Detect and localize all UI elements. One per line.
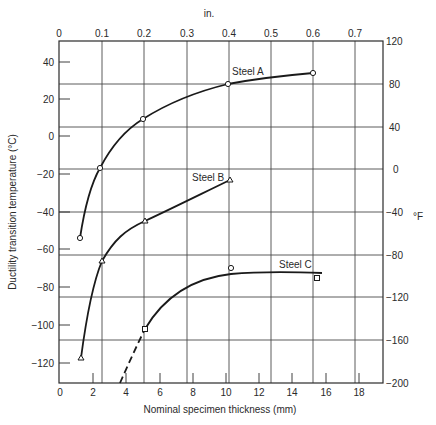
svg-text:4: 4 — [123, 387, 129, 398]
svg-text:16: 16 — [320, 387, 332, 398]
svg-text:0.3: 0.3 — [180, 28, 194, 39]
svg-text:6: 6 — [157, 387, 163, 398]
svg-text:−40: −40 — [37, 207, 54, 218]
steel-c-point — [143, 327, 148, 332]
svg-text:−120: −120 — [386, 292, 409, 303]
steel-b-curve — [81, 180, 230, 358]
steel-a-label: Steel A — [232, 66, 264, 77]
right-axis: 120 80 40 0 −40 −80 −120 −160 −200 — [386, 36, 409, 389]
steel-c-markers — [143, 265, 320, 331]
steel-c-point — [315, 276, 320, 281]
svg-text:−160: −160 — [386, 335, 409, 346]
svg-text:120: 120 — [386, 36, 403, 47]
left-ticks — [59, 62, 70, 363]
svg-text:−80: −80 — [37, 282, 54, 293]
horizontal-grid — [59, 84, 383, 340]
svg-text:0.1: 0.1 — [95, 28, 109, 39]
svg-text:−60: −60 — [37, 244, 54, 255]
svg-text:0.2: 0.2 — [137, 28, 151, 39]
steel-b-markers — [78, 177, 233, 360]
svg-text:0.6: 0.6 — [306, 28, 320, 39]
svg-text:−20: −20 — [37, 169, 54, 180]
bottom-axis: 0 2 4 6 8 10 12 14 16 18 Nominal specime… — [57, 387, 365, 415]
svg-text:80: 80 — [389, 79, 401, 90]
left-axis: 40 20 0 −20 −40 −60 −80 −100 −120 — [31, 57, 54, 369]
bottom-axis-title: Nominal specimen thickness (mm) — [144, 404, 297, 415]
steel-c-label: Steel C — [279, 259, 312, 270]
svg-text:−80: −80 — [386, 250, 403, 261]
svg-text:0.7: 0.7 — [348, 28, 362, 39]
top-axis-title: in. — [204, 8, 215, 19]
svg-text:0: 0 — [57, 387, 63, 398]
svg-text:18: 18 — [353, 387, 365, 398]
svg-text:12: 12 — [253, 387, 265, 398]
svg-text:−40: −40 — [386, 207, 403, 218]
svg-text:2: 2 — [90, 387, 96, 398]
steel-a-point — [225, 81, 230, 86]
steel-a-markers — [77, 70, 315, 240]
steel-c-curve — [145, 272, 322, 329]
steel-c-dashed-extrapolation — [120, 329, 145, 383]
svg-text:0: 0 — [393, 164, 399, 175]
svg-text:10: 10 — [220, 387, 232, 398]
steel-a-point — [310, 70, 315, 75]
steel-a-point — [97, 165, 102, 170]
svg-text:20: 20 — [43, 94, 55, 105]
svg-text:40: 40 — [43, 57, 55, 68]
steel-b-point — [227, 177, 233, 182]
bottom-ticks — [93, 373, 359, 383]
steel-a-point — [140, 116, 145, 121]
svg-text:14: 14 — [286, 387, 298, 398]
svg-text:0: 0 — [48, 131, 54, 142]
svg-text:−100: −100 — [31, 320, 54, 331]
svg-text:−120: −120 — [31, 358, 54, 369]
ductility-transition-chart: in. 0 0.1 0.2 0.3 0.4 0.5 0.6 0.7 40 20 … — [0, 0, 436, 425]
svg-text:−200: −200 — [386, 378, 409, 389]
steel-c-point — [228, 265, 233, 270]
svg-text:0: 0 — [56, 28, 62, 39]
svg-text:0.5: 0.5 — [264, 28, 278, 39]
steel-b-point — [78, 355, 84, 360]
steel-a-point — [77, 235, 82, 240]
steel-a-curve — [80, 73, 313, 238]
top-axis: in. 0 0.1 0.2 0.3 0.4 0.5 0.6 0.7 — [56, 8, 362, 39]
right-axis-unit: °F — [413, 211, 423, 222]
left-axis-title: Ductility transition temperature (°C) — [7, 134, 18, 290]
steel-b-label: Steel B — [192, 172, 225, 183]
svg-text:0.4: 0.4 — [222, 28, 236, 39]
svg-text:8: 8 — [190, 387, 196, 398]
svg-text:40: 40 — [389, 122, 401, 133]
